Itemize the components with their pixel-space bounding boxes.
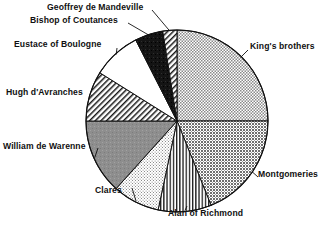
- slice-label-kings-brothers: King's brothers: [250, 42, 315, 51]
- slice-label-bishop-of-coutances: Bishop of Coutances: [30, 16, 118, 25]
- leader-bishop-of-coutances: [128, 23, 149, 35]
- pie-chart-canvas: [0, 0, 327, 227]
- slice-label-clares: Clares: [95, 186, 122, 195]
- leader-kings-brothers: [241, 50, 248, 57]
- pie-chart: Geoffrey de Mandeville Bishop of Coutanc…: [0, 0, 327, 227]
- slice-label-montgomeries: Montgomeries: [258, 170, 318, 179]
- slice-label-geoffrey-de-mandeville: Geoffrey de Mandeville: [47, 3, 143, 12]
- leader-geoffrey-de-mandeville: [152, 10, 170, 31]
- slice-label-eustace-of-boulogne: Eustace of Boulogne: [14, 40, 101, 49]
- slice-label-william-de-warenne: William de Warenne: [3, 142, 86, 151]
- slice-label-alan-of-richmond: Alan of Richmond: [168, 209, 243, 218]
- slice-label-hugh-davranches: Hugh d'Avranches: [6, 88, 83, 97]
